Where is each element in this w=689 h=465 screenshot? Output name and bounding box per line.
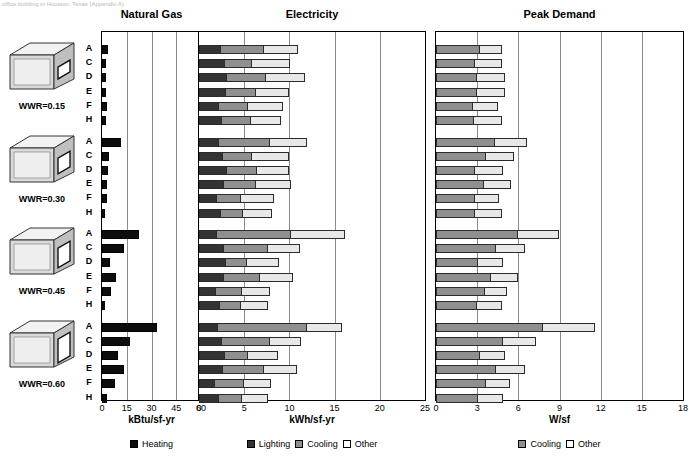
stacked-bar <box>102 230 139 239</box>
row-label-a: A <box>79 322 99 331</box>
bar-row <box>102 379 201 388</box>
axis-tick-label: 10 <box>284 402 294 414</box>
bar-segment-heating <box>102 258 110 267</box>
bar-segment-other <box>251 59 290 68</box>
bar-segment-cooling <box>436 273 490 282</box>
row-label-a: A <box>79 44 99 53</box>
legend-item-heating[interactable]: Heating <box>130 439 173 449</box>
bar-segment-cooling <box>218 138 270 147</box>
stacked-bar <box>436 102 498 111</box>
row-label-c: C <box>79 243 99 252</box>
bar-segment-cooling <box>436 351 479 360</box>
bar-row <box>102 45 201 54</box>
stacked-bar <box>436 116 502 125</box>
bar-row <box>199 180 425 189</box>
bar-row <box>436 209 683 218</box>
legend-item-cooling[interactable]: Cooling <box>295 439 338 449</box>
bar-row <box>199 273 425 282</box>
row-label-e: E <box>79 179 99 188</box>
bar-row <box>436 323 683 332</box>
legend-swatch-icon <box>247 440 255 448</box>
building-icon <box>6 317 78 375</box>
bar-segment-other <box>241 287 270 296</box>
row-label-a: A <box>79 229 99 238</box>
axis-tick-label: 30 <box>146 402 156 414</box>
bar-row <box>199 73 425 82</box>
legend-swatch-icon <box>518 440 526 448</box>
bar-row <box>102 180 201 189</box>
stacked-bar <box>102 273 116 282</box>
bar-segment-other <box>263 45 297 54</box>
stacked-bar <box>102 258 110 267</box>
row-label-h: H <box>79 115 99 124</box>
bar-segment-cooling <box>436 152 485 161</box>
bar-segment-heating <box>102 180 107 189</box>
bar-segment-cooling <box>436 59 474 68</box>
bar-segment-cooling <box>220 45 263 54</box>
legend-item-other[interactable]: Other <box>343 439 378 449</box>
stacked-bar <box>199 301 268 310</box>
bar-row <box>436 102 683 111</box>
stacked-bar <box>199 180 291 189</box>
bar-segment-other <box>485 379 510 388</box>
axis-tick-label: 5 <box>242 402 247 414</box>
stacked-bar <box>436 337 536 346</box>
bar-segment-other <box>269 337 302 346</box>
stacked-bar <box>199 351 278 360</box>
stacked-bar <box>102 152 109 161</box>
axis-tick-label: 25 <box>420 402 430 414</box>
stacked-bar <box>436 194 499 203</box>
bar-row <box>102 258 201 267</box>
bar-segment-lighting <box>199 209 220 218</box>
bar-segment-cooling <box>436 287 484 296</box>
bar-row <box>199 166 425 175</box>
bar-segment-lighting <box>199 166 226 175</box>
bar-segment-heating <box>102 379 115 388</box>
row-label-h: H <box>79 393 99 402</box>
bar-row <box>436 194 683 203</box>
bar-row <box>436 287 683 296</box>
legend-item-other[interactable]: Other <box>566 439 601 449</box>
bar-segment-heating <box>102 323 157 332</box>
bar-segment-other <box>259 273 293 282</box>
row-label-a: A <box>79 137 99 146</box>
axis-tick-label: 3 <box>475 402 480 414</box>
panel-title-natural-gas: Natural Gas <box>101 8 202 20</box>
stacked-bar <box>199 73 305 82</box>
stacked-bar <box>102 59 106 68</box>
stacked-bar <box>199 323 342 332</box>
bar-segment-other <box>477 258 503 267</box>
bar-row <box>102 152 201 161</box>
stacked-bar <box>199 365 297 374</box>
bar-row <box>102 102 201 111</box>
stacked-bar <box>102 88 106 97</box>
bar-segment-lighting <box>199 379 214 388</box>
bar-segment-cooling <box>436 337 502 346</box>
stacked-bar <box>102 209 105 218</box>
bar-segment-other <box>290 230 344 239</box>
bar-segment-lighting <box>199 230 216 239</box>
plot-area-peak-demand <box>435 31 684 401</box>
bar-row <box>436 258 683 267</box>
bar-row <box>102 88 201 97</box>
legend-swatch-icon <box>295 440 303 448</box>
bar-row <box>436 379 683 388</box>
legend-item-lighting[interactable]: Lighting <box>247 439 291 449</box>
bar-segment-heating <box>102 102 107 111</box>
bar-segment-other <box>246 258 279 267</box>
bar-segment-other <box>474 209 501 218</box>
bar-segment-other <box>265 73 305 82</box>
stacked-bar <box>102 102 107 111</box>
bar-segment-other <box>243 379 271 388</box>
bar-segment-heating <box>102 116 106 125</box>
bar-row <box>436 273 683 282</box>
bar-segment-cooling <box>222 365 264 374</box>
wwr-label: WWR=0.15 <box>2 101 82 111</box>
bar-segment-other <box>474 166 503 175</box>
axis-tick-label: 6 <box>516 402 521 414</box>
stacked-bar <box>436 301 502 310</box>
stacked-bar <box>102 180 107 189</box>
stacked-bar <box>199 273 293 282</box>
row-label-f: F <box>79 286 99 295</box>
legend-item-cooling[interactable]: Cooling <box>518 439 561 449</box>
